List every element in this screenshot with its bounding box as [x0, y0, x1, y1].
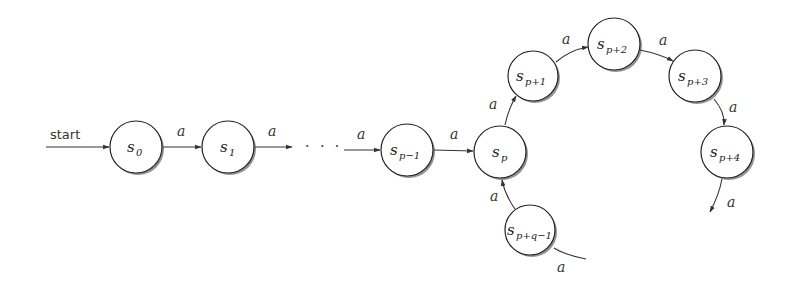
svg-text:0: 0: [136, 147, 143, 158]
svg-text:s: s: [390, 141, 398, 159]
state-sp-1: s p−1: [381, 124, 435, 178]
automaton-diagram: start a a · · · a a a a a a a a a s 0 s …: [0, 0, 796, 291]
state-s1: s 1: [202, 121, 256, 175]
edge-label: a: [659, 32, 667, 48]
svg-text:s: s: [127, 138, 135, 156]
state-sp: s p: [474, 126, 528, 180]
edge-label: a: [727, 194, 735, 210]
edge-sp+3-sp+4: [714, 99, 724, 125]
edge-label: a: [357, 126, 365, 142]
ellipsis: · · ·: [305, 138, 342, 154]
svg-text:p+2: p+2: [606, 44, 627, 55]
edge-label: a: [562, 31, 570, 47]
state-sp+2: s p+2: [588, 18, 642, 72]
svg-text:p+4: p+4: [719, 152, 740, 163]
edge-sp+1-sp+2: [556, 47, 588, 62]
svg-text:s: s: [516, 67, 524, 85]
svg-text:s: s: [507, 221, 515, 239]
edge-label: a: [177, 123, 185, 139]
edge-label: a: [557, 259, 565, 275]
edge-label: a: [450, 126, 458, 142]
edge-label: a: [489, 96, 497, 112]
svg-text:p−1: p−1: [399, 150, 420, 161]
edge-sp+q-1-sp: [502, 180, 515, 209]
svg-text:s: s: [710, 143, 718, 161]
edge-label: a: [729, 99, 737, 115]
edge-incoming-sp+q-1: [554, 248, 586, 259]
svg-text:s: s: [678, 67, 686, 85]
svg-text:s: s: [492, 143, 500, 161]
svg-text:1: 1: [229, 147, 235, 158]
edge-sp-sp+1: [505, 96, 516, 125]
svg-text:p+3: p+3: [687, 76, 708, 87]
state-sp+q-1: s p+q−1: [505, 205, 557, 257]
svg-text:p+1: p+1: [525, 76, 546, 87]
state-sp+4: s p+4: [701, 126, 755, 180]
state-s0: s 0: [110, 121, 164, 175]
start-label: start: [50, 127, 80, 142]
edge-label: a: [490, 188, 498, 204]
svg-text:s: s: [597, 35, 605, 53]
svg-text:p+q−1: p+q−1: [516, 230, 552, 241]
edge-label: a: [268, 123, 276, 139]
svg-text:s: s: [220, 138, 228, 156]
state-sp+3: s p+3: [669, 50, 723, 104]
state-sp+1: s p+1: [508, 51, 560, 103]
edge-sp-1-sp: [434, 150, 473, 151]
svg-text:p: p: [501, 152, 508, 163]
edge-sp+4-continue: [710, 179, 722, 212]
edge-sp+2-sp+3: [640, 50, 673, 61]
